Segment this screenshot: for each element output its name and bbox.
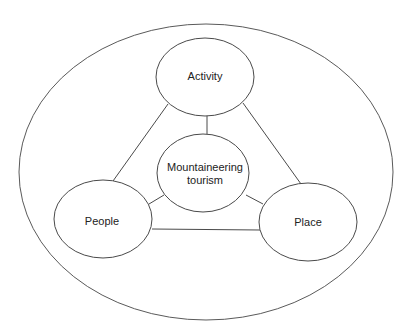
node-center-label-line1: Mountaineering xyxy=(167,161,243,173)
edge-activity-place xyxy=(243,103,301,184)
node-place-label: Place xyxy=(294,216,322,228)
mountaineering-tourism-diagram: Activity Mountaineering tourism People P… xyxy=(0,0,411,333)
edge-people-place xyxy=(152,229,260,230)
node-activity: Activity xyxy=(156,38,254,116)
edge-center-people xyxy=(149,195,164,204)
node-mountaineering-tourism: Mountaineering tourism xyxy=(157,134,249,212)
node-people: People xyxy=(54,180,152,258)
edge-center-place xyxy=(246,195,263,204)
diagram-canvas: Activity Mountaineering tourism People P… xyxy=(0,0,411,333)
node-activity-label: Activity xyxy=(188,70,223,82)
node-place: Place xyxy=(259,183,357,261)
node-people-label: People xyxy=(85,215,119,227)
node-center-ellipse xyxy=(157,134,249,212)
node-center-label-line2: tourism xyxy=(187,174,223,186)
